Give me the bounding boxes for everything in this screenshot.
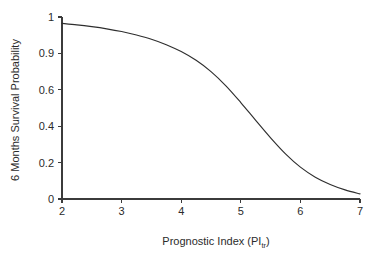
- x-axis-tick-label: 4: [178, 205, 184, 217]
- chart-figure: 00.20.40.60.91 234567 6 Months Survival …: [0, 0, 383, 257]
- y-axis-tick-labels: 00.20.40.60.91: [39, 11, 54, 205]
- y-axis-tick-label: 0: [48, 193, 54, 205]
- y-axis-tick-label: 0.4: [39, 120, 54, 132]
- x-axis-tick-label: 6: [297, 205, 303, 217]
- x-axis-tick-label: 5: [238, 205, 244, 217]
- x-axis-tick-labels: 234567: [59, 205, 363, 217]
- x-axis-tick-label: 7: [357, 205, 363, 217]
- survival-curve-line: [62, 23, 360, 194]
- x-axis-tick-label: 3: [119, 205, 125, 217]
- x-axis-title: Prognostic Index (PItr): [162, 235, 269, 250]
- x-axis-title-suffix: ): [266, 235, 270, 247]
- x-axis-ticks: [62, 199, 360, 203]
- y-axis-title: 6 Months Survival Probability: [9, 39, 21, 181]
- y-axis-tick-label: 0.6: [39, 84, 54, 96]
- x-axis-tick-label: 2: [59, 205, 65, 217]
- y-axis-tick-label: 0.2: [39, 157, 54, 169]
- x-axis-title-prefix: Prognostic Index (PI: [162, 235, 261, 247]
- y-axis-tick-label: 0.9: [39, 47, 54, 59]
- y-axis-ticks: [58, 17, 62, 199]
- y-axis-tick-label: 1: [48, 11, 54, 23]
- chart-plot-area: 00.20.40.60.91 234567 6 Months Survival …: [0, 0, 383, 257]
